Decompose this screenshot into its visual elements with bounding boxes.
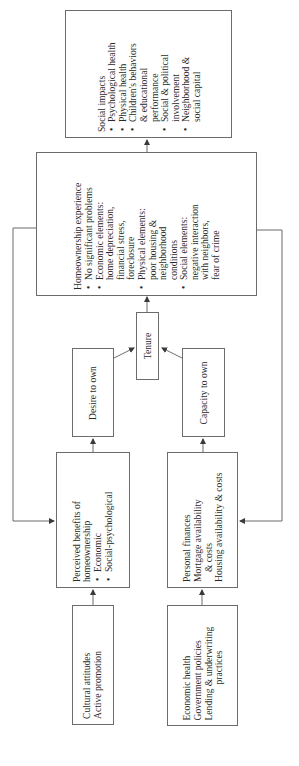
- social-impact-item: Psychological health: [106, 10, 117, 132]
- tenure-label: Tenure: [142, 333, 153, 360]
- social-impact-item: Physical health: [117, 10, 128, 132]
- experience-list: No significant problems Economic element…: [83, 152, 221, 290]
- economic-line: Lending & underwriting: [203, 605, 214, 720]
- experience-item: Social elements: negative interaction wi…: [178, 152, 220, 290]
- cultural-line: Active promotion: [93, 605, 104, 719]
- desire-to-own-box: Desire to own: [72, 348, 114, 437]
- economic-line: practices: [213, 605, 224, 720]
- capacity-to-own-box: Capacity to own: [182, 348, 225, 437]
- social-impacts-box: Social impacts Psychological health Phys…: [65, 10, 232, 138]
- experience-item: Physical elements: poor housing & neighb…: [136, 152, 178, 290]
- finances-line: & costs: [203, 452, 214, 582]
- perceived-benefits-box: Perceived benefits of homeownership Econ…: [56, 452, 130, 588]
- social-impact-item: Social & political involvement: [159, 10, 180, 132]
- economic-line: Economic health: [181, 605, 192, 720]
- experience-item: No significant problems: [83, 152, 94, 290]
- social-impacts-list: Psychological health Physical health Chi…: [106, 10, 201, 132]
- cultural-attitudes-box: Cultural attitudes Active promotion: [72, 605, 114, 725]
- economic-context-box: Economic health Government policies Lend…: [167, 605, 238, 726]
- desire-label: Desire to own: [88, 366, 99, 420]
- personal-finances-box: Personal finances Mortgage availability …: [167, 452, 238, 588]
- social-impacts-title: Social impacts: [96, 10, 107, 132]
- benefit-item: Social-psychological: [104, 452, 115, 582]
- social-impact-item: Neighborhood & social capital: [180, 10, 201, 132]
- experience-item: Economic elements: home depreciation, fi…: [94, 152, 136, 290]
- social-impact-item: Children's behaviors & educational perfo…: [127, 10, 159, 132]
- finances-line: Housing availability & costs: [213, 452, 224, 582]
- tenure-box: Tenure: [136, 312, 159, 380]
- capacity-label: Capacity to own: [198, 361, 209, 424]
- homeownership-diagram: Social impacts Psychological health Phys…: [0, 0, 299, 766]
- homeownership-experience-box: Homeownership experience No significant …: [36, 152, 257, 296]
- perceived-benefits-list: Economic Social-psychological: [93, 452, 114, 582]
- experience-title: Homeownership experience: [72, 152, 83, 290]
- economic-line: Government policies: [192, 605, 203, 720]
- finances-line: Personal finances: [181, 452, 192, 582]
- finances-line: Mortgage availability: [192, 452, 203, 582]
